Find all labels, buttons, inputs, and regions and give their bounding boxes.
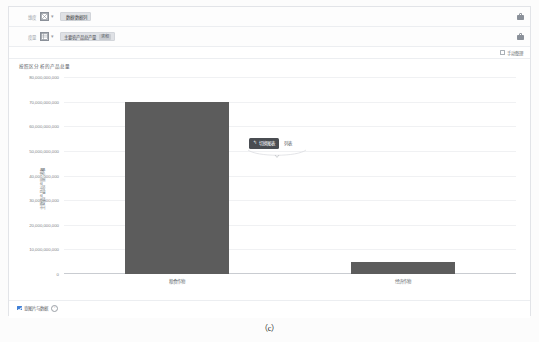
chart-title: 按照区分析的产品总量 [19,63,71,69]
shelf-label-dimension: 维度 [14,14,36,20]
lock-icon-measure[interactable] [517,33,524,41]
shelf-field-measure[interactable]: 主要农产品总产量 求和 [60,32,115,41]
chart-area: 按照区分析的产品总量 主要农产品总产量 求和 010,000,000,00020… [9,59,530,318]
switch-chart-popup[interactable]: ↰ 切换图表 列表 [249,138,292,149]
bar-1[interactable] [125,102,229,274]
info-icon[interactable]: i [51,305,58,312]
shelf-dropzone-measure[interactable] [121,32,511,42]
manual-sort-checkbox[interactable] [500,50,505,55]
y-axis-tick-label: 30,000,000,000 [29,198,59,203]
shelf-dropzone-dimension[interactable] [97,12,511,22]
gridline [64,77,516,78]
y-axis-tick-label: 20,000,000,000 [29,222,59,227]
x-axis-tick-label: 经济作物 [395,278,411,284]
switch-chart-label: 切换图表 [259,140,275,146]
switch-chart-button[interactable]: ↰ 切换图表 [249,138,279,149]
y-axis-tick-label: 80,000,000,000 [29,75,59,80]
chevron-left-icon: ↰ [253,141,257,146]
shelf-row-dimension[interactable]: 维度 ▾ 数据/数据列 [9,7,530,27]
y-axis-tick-label: 50,000,000,000 [29,148,59,153]
chart-card: 维度 ▾ 数据/数据列 度量 ▾ 主要农产品总产量 求和 [8,6,531,316]
y-axis-tick-label: 0 [57,272,59,277]
shelf-aggregate-pill[interactable]: 求和 [99,34,111,40]
card-footer: 查图片与数据 i [9,300,530,315]
popup-pointer [247,149,307,158]
y-axis-tick-label: 60,000,000,000 [29,124,59,129]
shelf-field-text-dimension: 数据/数据列 [66,14,87,20]
x-axis-tick-label: 粮食作物 [169,278,185,284]
screenshot-root: 维度 ▾ 数据/数据列 度量 ▾ 主要农产品总产量 求和 [0,0,539,342]
lock-icon-dimension[interactable] [517,13,524,21]
plot-canvas: 010,000,000,00020,000,000,00030,000,000,… [64,77,516,274]
bar-2[interactable] [351,262,455,274]
x-axis-title-wrap: 一级分类 [0,333,290,339]
chevron-down-icon-measure[interactable]: ▾ [51,34,54,39]
shelf-field-text-measure: 主要农产品总产量 [64,34,96,40]
figure-caption: （c） [0,322,539,333]
measure-icon [40,32,49,41]
y-axis-tick-label: 40,000,000,000 [29,173,59,178]
options-bar: 手动整理 [9,47,530,59]
chevron-down-icon-dimension[interactable]: ▾ [51,14,54,19]
show-data-label: 查图片与数据 [24,305,48,311]
show-data-checkbox[interactable] [17,306,22,311]
dimension-icon [40,12,49,21]
shelf-field-dimension[interactable]: 数据/数据列 [60,12,91,21]
y-axis-tick-label: 70,000,000,000 [29,99,59,104]
y-axis-tick-label: 10,000,000,000 [29,247,59,252]
popup-side-text[interactable]: 列表 [284,138,292,146]
shelf-row-measure[interactable]: 度量 ▾ 主要农产品总产量 求和 [9,27,530,47]
shelf-label-measure: 度量 [14,34,36,40]
manual-sort-label: 手动整理 [507,50,523,56]
